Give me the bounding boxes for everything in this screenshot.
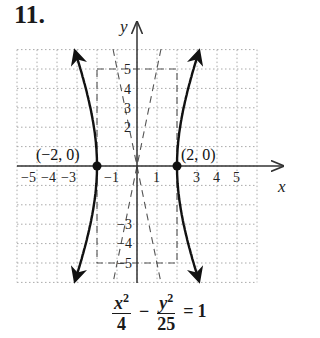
vertex-left-dot (93, 162, 102, 171)
x-tick: 5 (233, 170, 240, 185)
eq-minus: − (139, 301, 149, 322)
vertex-left-label: (−2, 0) (36, 146, 80, 164)
eq-num1: x (114, 293, 123, 313)
y-axis-label: y (118, 17, 128, 36)
x-tick: −1 (104, 170, 119, 185)
x-tick: 1 (153, 170, 160, 185)
x-axis-label: x (277, 177, 286, 196)
x-tick: −4 (41, 170, 56, 185)
y-tick: 3 (124, 101, 131, 116)
y-tick: 4 (124, 82, 131, 97)
eq-exp1: 2 (123, 291, 129, 305)
eq-den2: 25 (157, 314, 175, 334)
x-tick: 3 (193, 170, 200, 185)
y-tick: −3 (117, 217, 132, 232)
x-tick: −5 (21, 170, 36, 185)
eq-equals: = (183, 301, 193, 322)
eq-rhs: 1 (198, 301, 207, 322)
y-tick: −5 (117, 256, 132, 271)
equation: x2 4 − y2 25 = 1 (108, 288, 207, 334)
eq-exp2: 2 (167, 291, 173, 305)
eq-den1: 4 (117, 314, 126, 334)
x-tick: 4 (213, 170, 220, 185)
y-tick: 2 (124, 120, 131, 135)
y-tick: 5 (124, 62, 131, 77)
fraction-y: y2 25 (157, 288, 175, 334)
vertex-right-label: (2, 0) (181, 146, 216, 164)
x-tick: −3 (61, 170, 76, 185)
fraction-x: x2 4 (112, 288, 131, 334)
y-tick: −4 (117, 236, 132, 251)
